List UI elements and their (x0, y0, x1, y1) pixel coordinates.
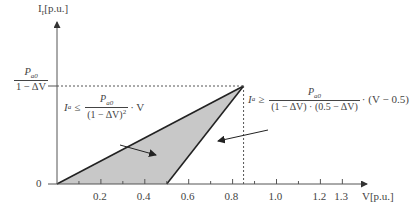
upper-bound-equation: Ia ≤ Pa0(1 − ΔV)2 · V (64, 93, 144, 120)
x-tick-label: 0.4 (137, 190, 151, 202)
y-level-label: Pa0 1 − ΔV (14, 66, 48, 92)
arrow-lower-annotation (218, 130, 268, 141)
y-axis-label: Ir[p.u.] (38, 2, 68, 17)
x-axis-label: V[p.u.] (362, 190, 394, 202)
x-tick-label: 1.0 (269, 190, 283, 202)
diagram: Ir[p.u.] V[p.u.] 0 Pa0 1 − ΔV Ia ≤ Pa0(1… (0, 0, 417, 214)
x-tick-label: 1.2 (312, 190, 326, 202)
x-tick-label: 0.2 (93, 190, 107, 202)
x-tick-label: 0.6 (181, 190, 195, 202)
x-tick-label: 1.3 (334, 190, 348, 202)
lower-bound-equation: Ia ≥ Pa0(1 − ΔV) · (0.5 − ΔV) · (V − 0.5… (248, 86, 409, 112)
y-zero-label: 0 (36, 177, 42, 189)
x-tick-label: 0.8 (225, 190, 239, 202)
